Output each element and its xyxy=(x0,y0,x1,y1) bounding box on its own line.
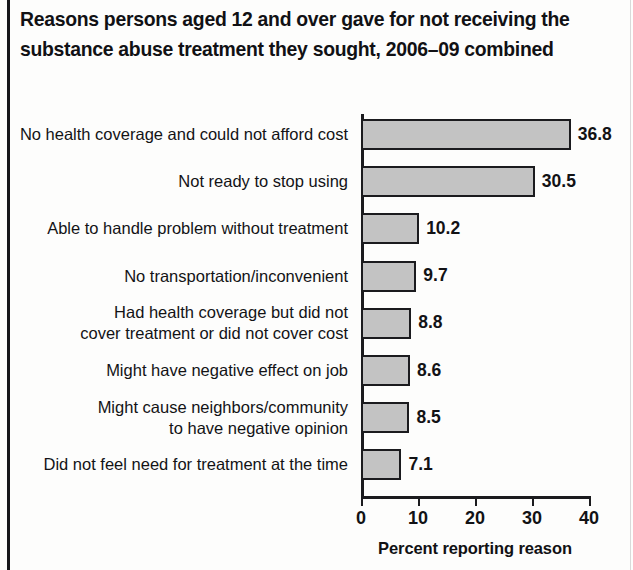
bar-category-label-line: Able to handle problem without treatment xyxy=(47,218,348,239)
bar-category-label: Might have negative effect on job xyxy=(106,360,348,381)
bar-value-label: 7.1 xyxy=(408,454,432,475)
bar-value-label: 36.8 xyxy=(578,124,612,145)
x-axis-tick-label: 30 xyxy=(512,508,552,529)
bar-category-label-line: No transportation/inconvenient xyxy=(124,266,348,287)
bar xyxy=(361,261,416,292)
x-axis-tick xyxy=(475,496,477,506)
bar-category-label-line: Might cause neighbors/community xyxy=(98,397,348,418)
x-axis-tick-label: 0 xyxy=(341,508,381,529)
bar-category-label: Had health coverage but did notcover tre… xyxy=(80,302,348,344)
bar xyxy=(361,308,411,339)
x-axis-tick xyxy=(589,496,591,506)
x-axis-tick xyxy=(418,496,420,506)
plot-area: No health coverage and could not afford … xyxy=(0,0,633,570)
bar xyxy=(361,355,410,386)
x-axis-tick xyxy=(532,496,534,506)
bar-value-label: 8.6 xyxy=(417,360,441,381)
bar-category-label-line: Might have negative effect on job xyxy=(106,360,348,381)
bar-category-label: Able to handle problem without treatment xyxy=(47,218,348,239)
x-axis-title: Percent reporting reason xyxy=(361,539,589,558)
bar-category-label-line: Did not feel need for treatment at the t… xyxy=(43,454,348,475)
x-axis-tick-label: 20 xyxy=(455,508,495,529)
bar-category-label: Might cause neighbors/communityto have n… xyxy=(98,397,348,439)
bar-category-label-line: Had health coverage but did not xyxy=(80,302,348,323)
bar xyxy=(361,119,571,150)
x-axis-tick-label: 10 xyxy=(398,508,438,529)
bar xyxy=(361,449,401,480)
x-axis-tick-label: 40 xyxy=(569,508,609,529)
x-axis-tick xyxy=(361,496,363,506)
bar-value-label: 10.2 xyxy=(426,218,460,239)
figure-panel: Reasons persons aged 12 and over gave fo… xyxy=(0,0,633,570)
bar-value-label: 8.5 xyxy=(416,407,440,428)
bar-category-label: No transportation/inconvenient xyxy=(124,266,348,287)
bar-category-label: Did not feel need for treatment at the t… xyxy=(43,454,348,475)
bar-category-label: Not ready to stop using xyxy=(178,171,348,192)
bar-category-label-line: cover treatment or did not cover cost xyxy=(80,323,348,344)
bar xyxy=(361,213,419,244)
bar-value-label: 9.7 xyxy=(423,265,447,286)
bar-value-label: 8.8 xyxy=(418,312,442,333)
bar xyxy=(361,402,409,433)
bar-category-label-line: Not ready to stop using xyxy=(178,171,348,192)
bar-value-label: 30.5 xyxy=(542,171,576,192)
bar-category-label-line: No health coverage and could not afford … xyxy=(20,124,348,145)
bar-category-label-line: to have negative opinion xyxy=(98,418,348,439)
bar xyxy=(361,166,535,197)
bar-category-label: No health coverage and could not afford … xyxy=(20,124,348,145)
